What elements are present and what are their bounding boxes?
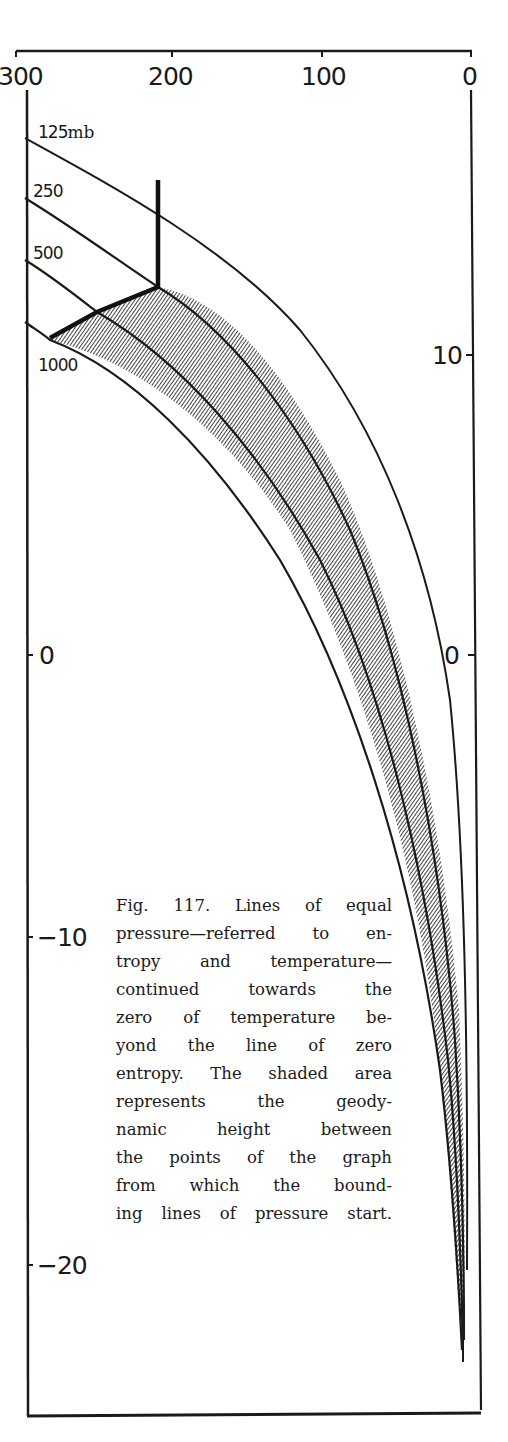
label-500mb: 500 bbox=[33, 245, 62, 262]
x-tick-300: 300 bbox=[0, 64, 43, 89]
x-tick-200: 200 bbox=[148, 64, 193, 89]
left-y-tick-0: 0 bbox=[39, 643, 54, 668]
label-1000mb: 1000 bbox=[38, 357, 77, 374]
x-tick-0: 0 bbox=[462, 64, 477, 89]
left-y-tick-minus-10: −10 bbox=[37, 925, 87, 950]
caption-line: from which the bound- bbox=[116, 1172, 392, 1200]
right-y-tick-0: 0 bbox=[444, 643, 459, 668]
label-250mb: 250 bbox=[33, 183, 62, 200]
left-y-tick-minus-20: −20 bbox=[37, 1253, 87, 1278]
figure: 300 200 100 0 0 −10 −20 10 0 125mb 250 5… bbox=[0, 0, 508, 1442]
label-125mb: 125mb bbox=[38, 124, 94, 141]
label-125mb-value: 125 bbox=[38, 122, 67, 142]
figure-caption: Fig. 117. Lines of equal pressure—referr… bbox=[116, 892, 392, 1228]
right-y-tick-10: 10 bbox=[432, 343, 462, 368]
caption-line: ing lines of pressure start. bbox=[116, 1200, 392, 1228]
x-tick-100: 100 bbox=[301, 64, 346, 89]
right-axis bbox=[471, 90, 481, 1410]
caption-line: namic height between bbox=[116, 1116, 392, 1144]
label-125mb-unit: mb bbox=[67, 122, 94, 142]
caption-line: entropy. The shaded area bbox=[116, 1060, 392, 1088]
caption-line: yond the line of zero bbox=[116, 1032, 392, 1060]
caption-line: zero of temperature be- bbox=[116, 1004, 392, 1032]
caption-line: represents the geody- bbox=[116, 1088, 392, 1116]
caption-line: continued towards the bbox=[116, 976, 392, 1004]
caption-line: the points of the graph bbox=[116, 1144, 392, 1172]
left-axis bbox=[27, 90, 28, 1416]
caption-line: pressure—referred to en- bbox=[116, 920, 392, 948]
bottom-axis bbox=[27, 1413, 481, 1416]
caption-line: Fig. 117. Lines of equal bbox=[116, 892, 392, 920]
caption-line: tropy and temperature— bbox=[116, 948, 392, 976]
